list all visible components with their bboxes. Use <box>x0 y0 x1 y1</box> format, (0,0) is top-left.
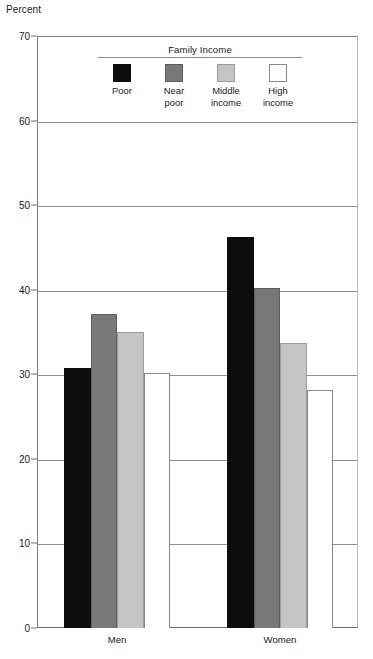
y-tick-label-60: 60 <box>4 115 30 126</box>
x-category-label-men: Men <box>108 634 127 645</box>
legend: Family Income PoorNear poorMiddle income… <box>98 44 302 108</box>
y-tick-label-30: 30 <box>4 369 30 380</box>
y-tick-mark-30 <box>31 374 37 375</box>
gridline-30 <box>38 375 357 376</box>
legend-item-poor[interactable]: Poor <box>98 64 146 97</box>
legend-swatch-poor <box>113 64 131 82</box>
y-tick-mark-40 <box>31 289 37 290</box>
legend-item-high-income[interactable]: High income <box>254 64 302 108</box>
legend-item-middle-income[interactable]: Middle income <box>202 64 250 108</box>
y-tick-label-0: 0 <box>4 623 30 634</box>
y-tick-label-40: 40 <box>4 284 30 295</box>
y-tick-mark-0 <box>31 628 37 629</box>
legend-item-near-poor[interactable]: Near poor <box>150 64 198 108</box>
gridline-50 <box>38 206 357 207</box>
y-tick-mark-60 <box>31 120 37 121</box>
x-category-label-women: Women <box>264 634 297 645</box>
y-tick-mark-20 <box>31 458 37 459</box>
legend-label-near-poor: Near poor <box>164 85 184 108</box>
gridline-10 <box>38 544 357 545</box>
gridline-60 <box>38 122 357 123</box>
plot-area <box>37 36 358 628</box>
legend-title: Family Income <box>98 44 302 57</box>
y-tick-mark-50 <box>31 205 37 206</box>
legend-label-poor: Poor <box>112 85 132 97</box>
legend-swatch-near-poor <box>165 64 183 82</box>
y-tick-label-50: 50 <box>4 200 30 211</box>
gridline-40 <box>38 291 357 292</box>
y-tick-label-10: 10 <box>4 538 30 549</box>
legend-items: PoorNear poorMiddle incomeHigh income <box>98 64 302 108</box>
legend-label-middle-income: Middle income <box>211 85 241 108</box>
y-tick-mark-70 <box>31 36 37 37</box>
y-axis-unit-label: Percent <box>6 4 41 15</box>
legend-swatch-middle-income <box>217 64 235 82</box>
y-tick-mark-10 <box>31 543 37 544</box>
y-tick-label-20: 20 <box>4 453 30 464</box>
legend-label-high-income: High income <box>263 85 293 108</box>
bar-chart-figure: Percent 010203040506070 Family Income Po… <box>0 0 373 659</box>
legend-swatch-high-income <box>269 64 287 82</box>
y-tick-label-70: 70 <box>4 31 30 42</box>
legend-divider <box>98 57 302 58</box>
gridline-20 <box>38 460 357 461</box>
